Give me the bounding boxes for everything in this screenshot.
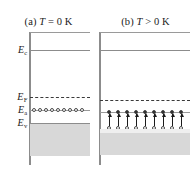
panel-b-title-value: 0 K xyxy=(154,16,170,27)
acceptor-circle xyxy=(50,108,54,112)
panel-b: (b) T > 0 K xyxy=(97,0,194,169)
excitation-arrow xyxy=(127,114,128,126)
excitation-arrow xyxy=(145,114,146,126)
panel-a-label-ec: Ec xyxy=(6,44,27,55)
acceptor-circle xyxy=(62,108,66,112)
panel-b-conduction-band-line xyxy=(100,50,190,51)
energy-band-figure: (a) T = 0 K Ec EF Ea xyxy=(0,0,194,169)
panel-a-title-value: 0 K xyxy=(57,16,73,27)
panel-b-title-symbol: T xyxy=(137,16,143,27)
panel-b-top-band-line xyxy=(100,32,190,33)
panel-a-title: (a) T = 0 K xyxy=(0,16,97,27)
panel-b-title: (b) T > 0 K xyxy=(97,16,194,27)
panel-b-fermi-level-line xyxy=(100,100,190,101)
panel-a-valence-band-fill xyxy=(30,123,90,156)
panel-b-title-relation: > xyxy=(145,16,151,27)
panel-a-top-band-line xyxy=(30,32,90,33)
excitation-arrow xyxy=(109,114,110,126)
panel-a-title-relation: = xyxy=(48,16,54,27)
panel-a-label-ef: EF xyxy=(6,91,27,102)
panel-a-label-ev: Ev xyxy=(6,117,27,128)
acceptor-circle xyxy=(32,108,36,112)
panel-a-title-prefix: (a) xyxy=(25,16,37,27)
panel-a-title-symbol: T xyxy=(39,16,45,27)
excitation-arrow xyxy=(118,114,119,126)
acceptor-circle xyxy=(44,108,48,112)
excitation-arrow xyxy=(163,114,164,126)
panel-a-conduction-band-line xyxy=(30,50,90,51)
acceptor-circle xyxy=(74,108,78,112)
acceptor-circle xyxy=(56,108,60,112)
panel-a-label-ea: Ea xyxy=(6,104,27,115)
acceptor-circle xyxy=(38,108,42,112)
panel-a: (a) T = 0 K Ec EF Ea xyxy=(0,0,97,169)
acceptor-circle xyxy=(68,108,72,112)
panel-a-fermi-level-line xyxy=(30,97,90,98)
excitation-arrow xyxy=(172,114,173,126)
panel-b-valence-band-fill-main xyxy=(100,133,190,155)
excitation-arrow xyxy=(136,114,137,126)
excitation-arrow xyxy=(181,114,182,126)
excitation-arrow xyxy=(154,114,155,126)
acceptor-circle xyxy=(80,108,84,112)
panel-b-title-prefix: (b) xyxy=(121,16,134,27)
